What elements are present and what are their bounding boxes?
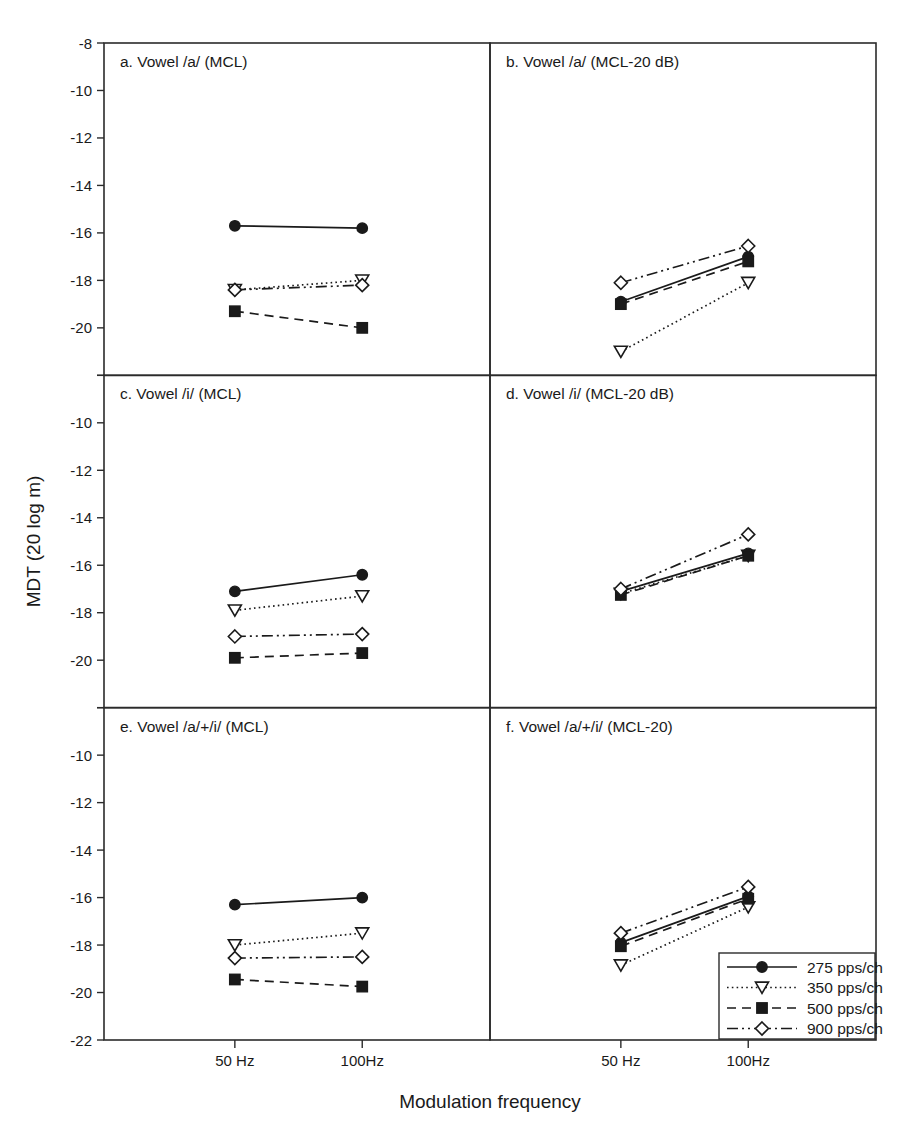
panel-title-d: d. Vowel /i/ (MCL-20 dB) (506, 385, 674, 402)
series-line-350-pps-ch (621, 283, 748, 352)
series-marker-900-pps-ch (356, 950, 369, 963)
series-line-275-pps-ch (235, 898, 362, 905)
series-marker-500-pps-ch (230, 306, 240, 316)
series-marker-500-pps-ch (616, 941, 626, 951)
series-marker-900-pps-ch (742, 239, 755, 252)
series-marker-275-pps-ch (230, 899, 240, 909)
x-axis-title: Modulation frequency (399, 1091, 581, 1112)
panel-frame (104, 375, 490, 707)
panel-title-b: b. Vowel /a/ (MCL-20 dB) (506, 53, 679, 70)
series-line-500-pps-ch (621, 261, 748, 304)
series-marker-900-pps-ch (228, 630, 241, 643)
series-line-350-pps-ch (235, 933, 362, 945)
panel-title-a: a. Vowel /a/ (MCL) (120, 53, 248, 70)
panel-frame (104, 708, 490, 1040)
panel-c: c. Vowel /i/ (MCL)-10-12-14-16-18-20 (70, 375, 490, 707)
series-line-900-pps-ch (621, 246, 748, 283)
series-line-900-pps-ch (235, 634, 362, 636)
series-line-500-pps-ch (235, 311, 362, 328)
x-tick-label: 50 Hz (601, 1052, 640, 1069)
series-line-275-pps-ch (235, 575, 362, 592)
series-marker-350-pps-ch (614, 346, 627, 357)
panel-title-f: f. Vowel /a/+/i/ (MCL-20) (506, 718, 673, 735)
series-marker-500-pps-ch (357, 323, 367, 333)
panel-title-c: c. Vowel /i/ (MCL) (120, 385, 241, 402)
x-tick-label: 100Hz (727, 1052, 770, 1069)
y-tick-label: -10 (70, 414, 92, 431)
y-tick-label: -18 (70, 272, 92, 289)
series-line-275-pps-ch (621, 553, 748, 591)
series-marker-900-pps-ch (742, 528, 755, 541)
y-tick-label: -20 (70, 652, 92, 669)
series-marker-900-pps-ch (614, 927, 627, 940)
series-line-275-pps-ch (621, 257, 748, 302)
series-marker-275-pps-ch (230, 221, 240, 231)
legend-marker-filled-square (757, 1003, 767, 1013)
y-tick-label: -8 (79, 35, 92, 52)
series-marker-350-pps-ch (356, 928, 369, 939)
series-line-500-pps-ch (235, 653, 362, 658)
panel-frame (490, 43, 876, 375)
y-tick-label: -16 (70, 557, 92, 574)
series-line-900-pps-ch (621, 887, 748, 933)
y-tick-label: -14 (70, 842, 92, 859)
series-marker-275-pps-ch (357, 223, 367, 233)
y-axis-title: MDT (20 log m) (23, 476, 44, 608)
panel-frame (104, 43, 490, 375)
series-marker-500-pps-ch (357, 981, 367, 991)
panel-title-e: e. Vowel /a/+/i/ (MCL) (120, 718, 269, 735)
series-marker-900-pps-ch (356, 628, 369, 641)
panel-d: d. Vowel /i/ (MCL-20 dB) (490, 375, 876, 707)
y-tick-label: -20 (70, 984, 92, 1001)
series-marker-350-pps-ch (356, 591, 369, 602)
series-marker-350-pps-ch (742, 277, 755, 288)
y-tick-label: -10 (70, 747, 92, 764)
x-tick-label: 50 Hz (215, 1052, 254, 1069)
series-line-500-pps-ch (621, 899, 748, 946)
y-tick-label: -12 (70, 794, 92, 811)
multi-panel-line-chart: a. Vowel /a/ (MCL)-8-10-12-14-16-18-20b.… (0, 0, 910, 1127)
legend-label: 275 pps/ch (807, 959, 883, 976)
series-marker-350-pps-ch (228, 605, 241, 616)
series-line-500-pps-ch (235, 979, 362, 986)
series-line-275-pps-ch (621, 896, 748, 942)
series-marker-350-pps-ch (228, 940, 241, 951)
y-tick-label: -12 (70, 129, 92, 146)
series-marker-500-pps-ch (357, 648, 367, 658)
y-tick-label: -18 (70, 604, 92, 621)
series-marker-500-pps-ch (230, 974, 240, 984)
series-marker-275-pps-ch (357, 570, 367, 580)
y-tick-label: -14 (70, 177, 92, 194)
y-tick-label: -16 (70, 224, 92, 241)
y-tick-label: -18 (70, 937, 92, 954)
series-marker-500-pps-ch (743, 551, 753, 561)
series-line-900-pps-ch (235, 957, 362, 958)
legend-label: 350 pps/ch (807, 979, 883, 996)
panel-e: e. Vowel /a/+/i/ (MCL)-10-12-14-16-18-20… (70, 708, 490, 1069)
panel-b: b. Vowel /a/ (MCL-20 dB) (490, 43, 876, 375)
panel-a: a. Vowel /a/ (MCL)-8-10-12-14-16-18-20 (70, 35, 490, 376)
y-tick-label: -20 (70, 319, 92, 336)
figure-root: a. Vowel /a/ (MCL)-8-10-12-14-16-18-20b.… (0, 0, 910, 1127)
series-marker-900-pps-ch (228, 952, 241, 965)
series-marker-500-pps-ch (230, 653, 240, 663)
series-marker-275-pps-ch (357, 892, 367, 902)
series-marker-900-pps-ch (614, 276, 627, 289)
y-tick-label: -12 (70, 462, 92, 479)
panel-frame (490, 375, 876, 707)
legend-label: 500 pps/ch (807, 1000, 883, 1017)
y-tick-label: -22 (70, 1032, 92, 1049)
y-tick-label: -10 (70, 82, 92, 99)
series-line-275-pps-ch (235, 226, 362, 228)
series-marker-500-pps-ch (743, 256, 753, 266)
x-tick-label: 100Hz (341, 1052, 384, 1069)
series-marker-350-pps-ch (614, 960, 627, 971)
y-tick-label: -14 (70, 509, 92, 526)
series-marker-500-pps-ch (743, 894, 753, 904)
series-marker-275-pps-ch (230, 586, 240, 596)
series-marker-900-pps-ch (742, 880, 755, 893)
y-tick-label: -16 (70, 889, 92, 906)
legend-label: 900 pps/ch (807, 1020, 883, 1037)
series-marker-500-pps-ch (616, 299, 626, 309)
legend: 275 pps/ch350 pps/ch500 pps/ch900 pps/ch (719, 953, 883, 1039)
